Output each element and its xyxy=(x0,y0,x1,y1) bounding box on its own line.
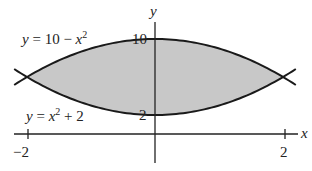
x-tick-label-2: 2 xyxy=(280,144,288,160)
y-axis-label: y xyxy=(148,3,157,19)
y-tick-label-2: 2 xyxy=(139,107,147,123)
area-between-curves-plot: y x −2 2 10 2 y = 10 − x2 y = x2 + 2 xyxy=(0,0,312,171)
lower-curve-label: y = x2 + 2 xyxy=(24,106,84,124)
upper-curve-label: y = 10 − x2 xyxy=(20,29,87,47)
svg-text:y = x2 + 2: y = x2 + 2 xyxy=(24,106,84,124)
svg-text:y = 10 − x2: y = 10 − x2 xyxy=(20,29,87,47)
y-tick-label-10: 10 xyxy=(132,31,147,47)
x-tick-label-neg2: −2 xyxy=(13,144,29,160)
x-axis-label: x xyxy=(300,125,308,141)
